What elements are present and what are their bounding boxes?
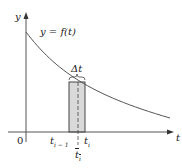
x-axis-arrow-icon [167,130,174,135]
curve-label: y = f(t) [40,27,76,37]
x-axis-label: t [176,133,180,143]
y-axis-arrow-icon [24,12,29,19]
delta-t-label: Δt [71,64,82,74]
diagram-graphics [0,0,182,168]
approximating-rectangle [69,82,85,132]
origin-label: 0 [17,136,23,146]
y-axis-label: y [15,12,21,22]
right-endpoint-label: ti [84,136,90,148]
curve-f-of-t [26,32,170,118]
riemann-rectangle-diagram: y t 0 y = f(t) Δt ti − 1 ti ti [0,0,182,168]
left-endpoint-subscript: i − 1 [54,141,69,148]
left-endpoint-label: ti − 1 [50,136,69,148]
right-endpoint-subscript: i [88,141,90,148]
sample-point-subscript: i [79,155,81,162]
sample-point-label: ti [75,150,81,162]
